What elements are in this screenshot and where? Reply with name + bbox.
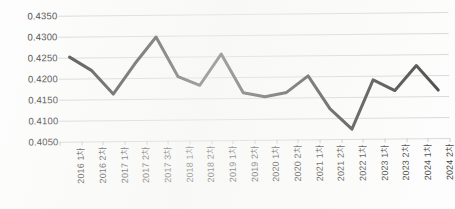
x-axis-tick-mark bbox=[363, 139, 364, 143]
x-axis-tick-label: 2016 2차 bbox=[96, 147, 109, 183]
x-axis-tick-label-text: 2023 1차 bbox=[377, 144, 390, 180]
x-axis-tick-label-text: 2016 1차 bbox=[74, 147, 87, 183]
x-axis-tick-label-text: 2019 2차 bbox=[247, 146, 260, 182]
x-axis-tick-mark bbox=[320, 139, 321, 143]
x-axis-tick-label-text: 2017 2차 bbox=[139, 147, 152, 183]
x-axis-tick-label: 2023 1차 bbox=[377, 144, 390, 180]
x-axis-tick-label-text: 2020 2차 bbox=[291, 145, 304, 181]
x-axis-tick-label: 2020 1차 bbox=[269, 146, 282, 182]
x-axis-tick-label: 2024 1차 bbox=[421, 144, 434, 180]
x-axis-tick-mark bbox=[146, 141, 147, 145]
x-axis-tick-mark bbox=[385, 139, 386, 143]
x-axis-tick-label: 2021 2차 bbox=[334, 145, 347, 181]
series-polyline bbox=[69, 34, 438, 132]
series-line bbox=[58, 12, 449, 142]
x-axis-tick-label-text: 2018 2차 bbox=[204, 146, 217, 182]
x-axis-tick-label: 2023 2차 bbox=[399, 144, 412, 180]
x-axis-tick-mark bbox=[276, 140, 277, 144]
x-axis-tick-mark bbox=[298, 139, 299, 143]
x-axis-tick-mark bbox=[450, 138, 451, 142]
x-axis-tick-label-text: 2016 2차 bbox=[96, 147, 109, 183]
x-axis-tick-label: 2018 2차 bbox=[204, 146, 217, 182]
x-axis-tick-mark bbox=[211, 140, 212, 144]
y-axis-tick-label: 0.4200 bbox=[6, 73, 58, 84]
x-axis-tick-label: 2019 2차 bbox=[247, 146, 260, 182]
x-axis-tick-mark bbox=[190, 140, 191, 144]
y-axis-tick-label: 0.4250 bbox=[6, 52, 58, 63]
x-axis-tick-mark bbox=[255, 140, 256, 144]
y-axis-tick-label: 0.4100 bbox=[6, 115, 58, 126]
x-axis-tick-mark bbox=[60, 142, 61, 146]
plot-area bbox=[58, 12, 449, 142]
x-axis-tick-label: 2017 3차 bbox=[161, 147, 174, 183]
x-axis-tick-mark bbox=[341, 139, 342, 143]
x-axis-tick-label-text: 2018 1차 bbox=[182, 146, 195, 182]
x-axis-tick-label: 2019 1차 bbox=[226, 146, 239, 182]
x-axis-tick-mark bbox=[81, 141, 82, 145]
x-axis-tick-label-text: 2019 1차 bbox=[226, 146, 239, 182]
x-axis-tick-label-text: 2023 2차 bbox=[399, 144, 412, 180]
x-axis-tick-label: 2022 1차 bbox=[356, 145, 369, 181]
x-axis-tick-label: 2021 1차 bbox=[312, 145, 325, 181]
x-axis-tick-mark bbox=[233, 140, 234, 144]
line-chart: 0.43500.43000.42500.42000.41500.41000.40… bbox=[0, 0, 455, 209]
x-axis-tick-mark bbox=[406, 138, 407, 142]
x-axis-tick-mark bbox=[428, 138, 429, 142]
x-axis-tick-label: 2024 2차 bbox=[442, 144, 455, 180]
x-axis-tick-label: 2017 1차 bbox=[117, 147, 130, 183]
x-axis-tick-label-text: 2017 1차 bbox=[117, 147, 130, 183]
y-axis-tick-label: 0.4050 bbox=[6, 136, 58, 147]
x-axis-tick-label: 2020 2차 bbox=[291, 145, 304, 181]
x-axis-tick-label-text: 2020 1차 bbox=[269, 146, 282, 182]
x-axis-tick-label-text: 2024 1차 bbox=[421, 144, 434, 180]
y-axis-tick-labels: 0.43500.43000.42500.42000.41500.41000.40… bbox=[5, 16, 58, 142]
chart-canvas: 0.43500.43000.42500.42000.41500.41000.40… bbox=[0, 0, 455, 209]
y-axis-tick-label: 0.4150 bbox=[6, 94, 58, 105]
x-axis-tick-mark bbox=[168, 141, 169, 145]
x-axis-tick-label: 2016 1차 bbox=[74, 147, 87, 183]
x-axis-tick-label: 2018 1차 bbox=[182, 146, 195, 182]
x-axis-tick-label-text: 2022 1차 bbox=[356, 145, 369, 181]
x-axis-tick-label-text: 2024 2차 bbox=[442, 144, 455, 180]
x-axis-tick-labels: 2016 1차2016 2차2017 1차2017 2차2017 3차2018 … bbox=[60, 144, 451, 209]
x-axis-tick-label-text: 2017 3차 bbox=[161, 147, 174, 183]
x-axis-tick-label-text: 2021 1차 bbox=[312, 145, 325, 181]
x-axis-tick-label-text: 2021 2차 bbox=[334, 145, 347, 181]
y-axis-tick-label: 0.4350 bbox=[5, 10, 57, 21]
x-axis-tick-mark bbox=[125, 141, 126, 145]
x-axis-tick-mark bbox=[103, 141, 104, 145]
x-axis-tick-label: 2017 2차 bbox=[139, 147, 152, 183]
y-axis-tick-label: 0.4300 bbox=[5, 31, 57, 42]
